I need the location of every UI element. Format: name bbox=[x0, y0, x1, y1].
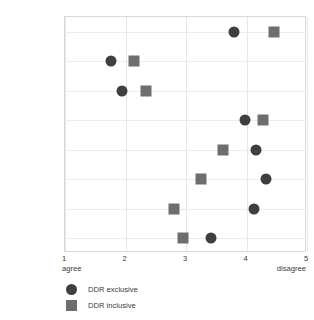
gridline-horizontal bbox=[65, 120, 305, 121]
x-tick-label: 5 bbox=[304, 254, 308, 263]
data-point-circle bbox=[240, 115, 251, 126]
square-marker-icon bbox=[60, 300, 82, 311]
gridline-vertical bbox=[65, 17, 66, 251]
data-point-square bbox=[269, 26, 280, 37]
gridline-horizontal bbox=[65, 150, 305, 151]
x-tick-label: 3 bbox=[183, 254, 187, 263]
data-point-circle bbox=[248, 203, 259, 214]
legend-label: DDR inclusive bbox=[88, 301, 136, 310]
x-axis-low-label: agree bbox=[62, 264, 81, 273]
data-point-square bbox=[128, 56, 139, 67]
x-tick-label: 1 bbox=[62, 254, 66, 263]
legend-label: DDR exclusive bbox=[88, 285, 138, 294]
data-point-circle bbox=[260, 174, 271, 185]
data-point-circle bbox=[205, 233, 216, 244]
plot-area: BeneficialFree to takeUsing is normalCan… bbox=[64, 16, 306, 252]
legend-item-ddr-exclusive: DDR exclusive bbox=[60, 281, 138, 297]
legend-item-ddr-inclusive: DDR inclusive bbox=[60, 297, 138, 313]
gridline-horizontal bbox=[65, 209, 305, 210]
data-point-circle bbox=[229, 26, 240, 37]
gridline-vertical bbox=[307, 17, 308, 251]
data-point-square bbox=[196, 174, 207, 185]
data-point-circle bbox=[251, 144, 262, 155]
circle-marker-icon bbox=[60, 284, 82, 295]
data-point-square bbox=[177, 233, 188, 244]
data-point-circle bbox=[105, 56, 116, 67]
gridline-vertical bbox=[186, 17, 187, 251]
x-tick-label: 2 bbox=[122, 254, 126, 263]
x-axis-high-label: disagree bbox=[277, 264, 306, 273]
gridline-vertical bbox=[126, 17, 127, 251]
data-point-circle bbox=[116, 85, 127, 96]
gridline-horizontal bbox=[65, 91, 305, 92]
data-point-square bbox=[217, 144, 228, 155]
data-point-square bbox=[168, 203, 179, 214]
legend: DDR exclusive DDR inclusive bbox=[60, 281, 138, 313]
gridline-horizontal bbox=[65, 61, 305, 62]
gridline-vertical bbox=[247, 17, 248, 251]
data-point-square bbox=[141, 85, 152, 96]
data-point-square bbox=[257, 115, 268, 126]
dot-plot-chart: BeneficialFree to takeUsing is normalCan… bbox=[0, 0, 314, 320]
x-tick-label: 4 bbox=[243, 254, 247, 263]
